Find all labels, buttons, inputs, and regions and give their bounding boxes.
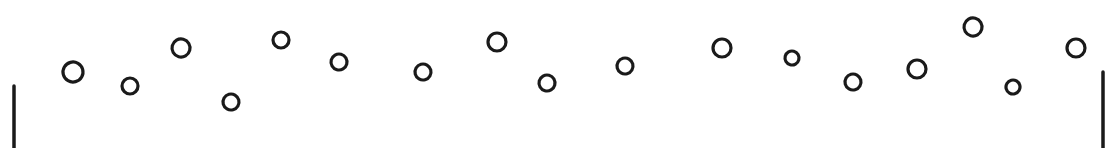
bubble-circle — [615, 56, 635, 76]
bubble-circle — [273, 32, 289, 48]
bubble-circle — [962, 16, 984, 38]
bubble-circle — [221, 92, 241, 112]
bubble-circle — [1067, 39, 1085, 57]
bubble-circle — [713, 39, 731, 57]
bubble-circle — [170, 37, 192, 59]
bubble-circle — [122, 78, 138, 94]
bubbles-diagram — [0, 0, 1109, 148]
bubble-circle — [843, 72, 863, 92]
bubble-group — [61, 16, 1085, 112]
bubble-circle — [1004, 78, 1021, 95]
bubble-circle — [488, 33, 506, 51]
bubble-circle — [537, 73, 557, 93]
bubble-circle — [783, 49, 800, 66]
container-walls — [14, 72, 1103, 148]
bubble-circle — [329, 52, 349, 72]
bubble-circle — [413, 62, 433, 82]
bubble-circle — [908, 60, 926, 78]
bubble-circle — [61, 60, 85, 84]
